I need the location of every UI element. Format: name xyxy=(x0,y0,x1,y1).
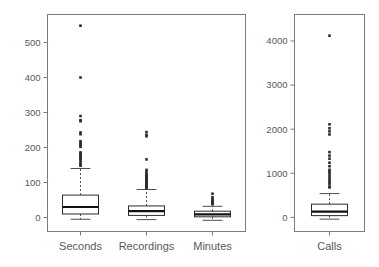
outlier-point xyxy=(328,130,331,133)
outlier-point xyxy=(328,161,331,164)
y-tick-label: 0 xyxy=(282,212,287,223)
y-tick-label: 400 xyxy=(25,72,41,83)
box-iqr xyxy=(63,195,99,214)
outlier-point xyxy=(79,115,82,118)
outlier-point xyxy=(79,120,82,123)
boxplot-figure: 0100200300400500 SecondsRecordingsMinute… xyxy=(0,0,379,267)
outlier-point xyxy=(145,158,148,161)
y-tick-label: 200 xyxy=(25,142,41,153)
y-tick-label: 0 xyxy=(35,212,40,223)
y-tick-label: 4000 xyxy=(266,35,287,46)
outlier-point xyxy=(328,186,331,189)
outlier-point xyxy=(328,34,331,37)
outlier-point xyxy=(79,133,82,136)
x-axis-label: Recordings xyxy=(119,240,175,252)
outlier-point xyxy=(328,165,331,168)
x-axis-label: Calls xyxy=(317,240,342,252)
y-tick-label: 1000 xyxy=(266,168,287,179)
outlier-point xyxy=(211,203,214,206)
figure-background xyxy=(0,0,379,267)
outlier-point xyxy=(79,24,82,27)
y-tick-label: 300 xyxy=(25,107,41,118)
y-tick-label: 500 xyxy=(25,37,41,48)
x-axis-label: Minutes xyxy=(193,240,232,252)
outlier-point xyxy=(145,187,148,190)
outlier-point xyxy=(328,157,331,160)
y-tick-label: 100 xyxy=(25,177,41,188)
outlier-point xyxy=(328,123,331,126)
outlier-point xyxy=(328,183,331,186)
outlier-point xyxy=(145,131,148,134)
y-tick-label: 2000 xyxy=(266,124,287,135)
outlier-point xyxy=(79,146,82,149)
outlier-point xyxy=(328,127,331,130)
outlier-point xyxy=(328,151,331,154)
outlier-point xyxy=(328,154,331,157)
box-iqr xyxy=(312,204,348,215)
x-axis-label: Seconds xyxy=(59,240,102,252)
y-tick-label: 3000 xyxy=(266,79,287,90)
outlier-point xyxy=(211,192,214,195)
outlier-point xyxy=(145,135,148,138)
outlier-point xyxy=(79,76,82,79)
outlier-point xyxy=(328,133,331,136)
outlier-point xyxy=(79,164,82,167)
